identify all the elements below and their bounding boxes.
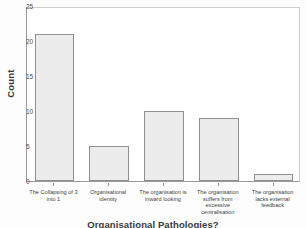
bar xyxy=(144,111,183,181)
x-tick-label: The organisation lacks external feedback xyxy=(245,189,300,209)
x-tick-mark xyxy=(53,183,54,186)
bar-series xyxy=(27,8,299,181)
x-tick-label: The organisation suffers from excessive … xyxy=(190,189,245,215)
x-tick-mark xyxy=(218,183,219,186)
bar xyxy=(199,118,238,181)
x-tick-mark xyxy=(273,183,274,186)
y-tick-label: 10 xyxy=(26,109,35,116)
y-tick-label: 5 xyxy=(26,144,32,151)
y-tick-label: 25 xyxy=(26,4,35,11)
x-axis-title: Organisational Pathologies? xyxy=(0,219,306,228)
y-tick-label: 0 xyxy=(26,179,32,186)
bar xyxy=(89,146,128,181)
y-axis-title: Count xyxy=(5,54,16,114)
bar xyxy=(254,174,293,181)
x-tick-label: Organisational identity xyxy=(81,189,136,202)
x-tick-mark xyxy=(108,183,109,186)
x-tick-mark xyxy=(163,183,164,186)
y-tick-label: 20 xyxy=(26,39,35,46)
bar xyxy=(35,34,74,181)
x-tick-label: The organisation is inward looking xyxy=(136,189,191,202)
bar-chart: Count 0510152025 The Collapsing of 3 int… xyxy=(0,0,306,228)
plot-area xyxy=(26,7,300,182)
x-tick-label: The Collapsing of 3 into 1 xyxy=(26,189,81,202)
y-tick-label: 15 xyxy=(26,74,35,81)
